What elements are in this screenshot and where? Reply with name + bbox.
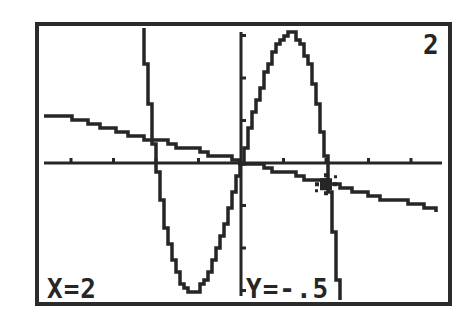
graph-function-number: 2 bbox=[423, 32, 440, 58]
trace-x-readout: X=2 bbox=[47, 276, 97, 302]
trace-y-readout: Y=-.5 bbox=[246, 276, 329, 302]
calculator-graph-screen bbox=[0, 0, 469, 315]
